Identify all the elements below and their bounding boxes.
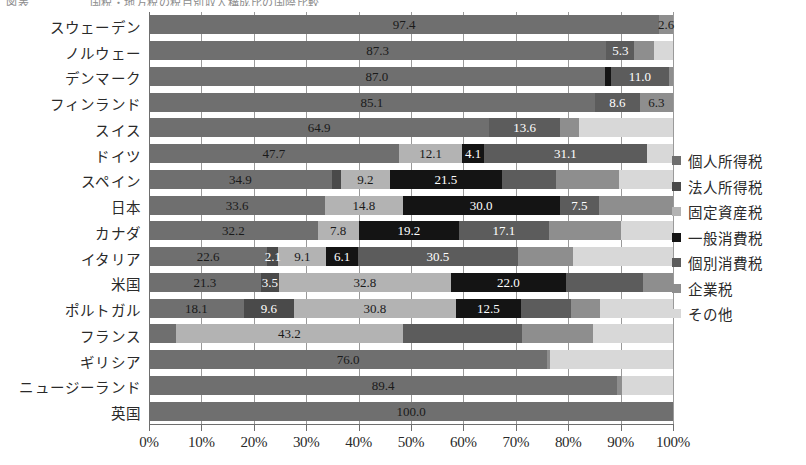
legend-item[interactable]: 一般消費税 — [672, 225, 804, 251]
bar-segment: 19.2 — [359, 221, 460, 240]
bar-row: 100.0 — [149, 402, 673, 421]
segment-value-label: 7.8 — [330, 224, 346, 237]
bar-segment: 3.5 — [261, 273, 279, 292]
bar-segment — [149, 324, 176, 343]
segment-value-label: 12.5 — [477, 302, 500, 315]
segment-value-label: 30.8 — [363, 302, 386, 315]
bar-segment: 22.6 — [149, 247, 267, 266]
bar-segment: 12.1 — [399, 144, 462, 163]
bar-segment: 7.8 — [318, 221, 359, 240]
segment-value-label: 89.4 — [372, 379, 395, 392]
bar-segment — [556, 170, 619, 189]
segment-value-label: 6.3 — [648, 96, 664, 109]
legend-swatch-icon — [672, 309, 681, 318]
bar-segment: 17.1 — [459, 221, 549, 240]
category-label: スイス — [95, 119, 141, 140]
category-label: 日本 — [111, 196, 141, 217]
category-label: ノルウェー — [65, 42, 141, 63]
bar-segment: 31.1 — [484, 144, 647, 163]
bar-row: 87.011.0 — [149, 67, 673, 86]
bar-segment: 9.1 — [278, 247, 326, 266]
segment-value-label: 85.1 — [361, 96, 384, 109]
category-label: フィンランド — [50, 93, 141, 114]
x-tick-label: 60% — [450, 434, 477, 451]
bar-segment — [654, 41, 673, 60]
segment-value-label: 43.2 — [278, 327, 301, 340]
bar-segment: 9.2 — [341, 170, 389, 189]
segment-value-label: 6.1 — [334, 250, 350, 263]
x-tick-label: 20% — [240, 434, 267, 451]
segment-value-label: 17.1 — [493, 224, 516, 237]
bar-segment: 43.2 — [176, 324, 402, 343]
segment-value-label: 87.0 — [366, 70, 389, 83]
bar-segment: 13.6 — [489, 118, 560, 137]
bar-row: 32.27.819.217.1 — [149, 221, 673, 240]
legend-item[interactable]: 固定資産税 — [672, 199, 804, 225]
category-label: 米国 — [111, 273, 141, 294]
segment-value-label: 30.5 — [427, 250, 450, 263]
bar-segment: 87.0 — [149, 67, 605, 86]
segment-value-label: 18.1 — [185, 302, 208, 315]
legend-swatch-icon — [672, 207, 681, 216]
x-tick — [359, 424, 360, 431]
bar-row: 47.712.14.131.1 — [149, 144, 673, 163]
x-tick-label: 30% — [293, 434, 320, 451]
x-tick-label: 50% — [398, 434, 425, 451]
segment-value-label: 5.3 — [612, 44, 628, 57]
category-label: 英国 — [111, 402, 141, 423]
segment-value-label: 2.1 — [265, 250, 281, 263]
bar-row: 18.19.630.812.5 — [149, 299, 673, 318]
x-tick-label: 0% — [139, 434, 158, 451]
bar-segment: 89.4 — [149, 376, 617, 395]
legend: 個人所得税法人所得税固定資産税一般消費税個別消費税企業税その他 — [672, 148, 804, 327]
bar-segment: 2.6 — [659, 15, 673, 34]
category-label: ニュージーランド — [19, 376, 141, 397]
segment-value-label: 22.6 — [197, 250, 220, 263]
bar-row: 85.18.66.3 — [149, 93, 673, 112]
x-tick — [673, 424, 674, 431]
bar-segment: 30.5 — [358, 247, 518, 266]
bar-segment: 76.0 — [149, 350, 547, 369]
bar-segment: 8.6 — [595, 93, 640, 112]
bar-segment: 100.0 — [149, 402, 673, 421]
legend-swatch-icon — [672, 258, 681, 267]
legend-item[interactable]: 個別消費税 — [672, 250, 804, 276]
x-tick — [201, 424, 202, 431]
bar-segment — [579, 118, 673, 137]
legend-swatch-icon — [672, 233, 681, 242]
bar-segment — [647, 144, 673, 163]
bar-segment — [332, 170, 341, 189]
category-label: スウェーデン — [50, 16, 141, 37]
bar-segment: 32.8 — [279, 273, 451, 292]
segment-value-label: 30.0 — [470, 199, 493, 212]
segment-value-label: 64.9 — [308, 121, 331, 134]
bar-segment: 12.5 — [456, 299, 522, 318]
bar-segment — [560, 118, 578, 137]
x-tick-label: 100% — [656, 434, 690, 451]
segment-value-label: 100.0 — [396, 405, 425, 418]
legend-label: 個人所得税 — [688, 150, 763, 171]
legend-item[interactable]: その他 — [672, 301, 804, 327]
segment-value-label: 47.7 — [263, 147, 286, 160]
category-label: カナダ — [95, 222, 141, 243]
bar-segment: 9.6 — [244, 299, 294, 318]
bar-segment — [521, 299, 571, 318]
bar-segment — [593, 324, 673, 343]
legend-item[interactable]: 企業税 — [672, 276, 804, 302]
bar-rows: 97.42.687.35.387.011.085.18.66.364.913.6… — [149, 12, 673, 424]
bar-segment — [571, 299, 600, 318]
legend-item[interactable]: 個人所得税 — [672, 148, 804, 174]
legend-label: 法人所得税 — [688, 176, 763, 197]
category-label: ポルトガル — [65, 299, 141, 320]
category-label: ギリシア — [80, 351, 141, 372]
chart-title: 図表 国税・地方税の税目別収入構成比の国際比較 — [6, 0, 566, 6]
legend-item[interactable]: 法人所得税 — [672, 174, 804, 200]
bar-segment: 97.4 — [149, 15, 659, 34]
legend-swatch-icon — [672, 284, 681, 293]
bar-segment — [518, 247, 574, 266]
bar-segment — [643, 273, 673, 292]
bar-segment: 85.1 — [149, 93, 595, 112]
bar-segment: 2.1 — [267, 247, 278, 266]
bar-segment: 34.9 — [149, 170, 332, 189]
x-tick-label: 80% — [555, 434, 582, 451]
